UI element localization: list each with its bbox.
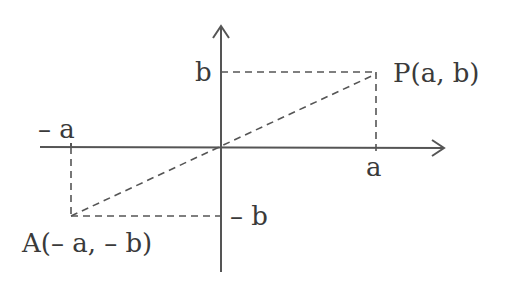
x-axis — [40, 147, 443, 148]
segment-a-to-p — [71, 74, 376, 216]
point-p-label: P(a, b) — [393, 58, 479, 88]
x-tick-label-a: a — [366, 152, 382, 182]
x-tick-label-neg-a: – a — [38, 114, 75, 144]
coordinate-diagram: P(a, b) A(– a, – b) b – b a – a — [0, 0, 509, 299]
y-tick-label-b: b — [195, 57, 212, 87]
y-tick-label-neg-b: – b — [230, 201, 268, 231]
point-a-label: A(– a, – b) — [21, 228, 152, 258]
